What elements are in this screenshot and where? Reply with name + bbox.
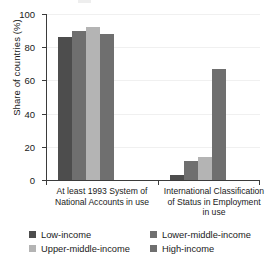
y-axis-tick-label: 60 xyxy=(24,75,35,86)
y-axis-tick: 60 xyxy=(42,80,47,81)
bar xyxy=(100,34,114,180)
bar xyxy=(184,161,198,180)
legend-item-high-income: High-income xyxy=(150,242,214,255)
legend-label: Upper-middle-income xyxy=(41,244,130,254)
bar-chart: Share of countries (%) 020406080100 At l… xyxy=(0,0,267,260)
bar xyxy=(58,37,72,180)
bar xyxy=(170,175,184,180)
x-axis-line xyxy=(46,180,260,181)
y-axis-tick-label: 0 xyxy=(30,175,35,186)
y-axis-title: Share of countries (%) xyxy=(11,0,22,138)
x-axis-label-line: National Accounts in use xyxy=(42,197,162,208)
x-axis-tick xyxy=(158,180,159,185)
x-axis-label-line: International Classification xyxy=(158,186,267,197)
y-axis-tick: 100 xyxy=(42,14,47,15)
y-axis-tick-label: 40 xyxy=(24,109,35,120)
legend-label: High-income xyxy=(162,244,214,254)
bar xyxy=(86,27,100,180)
y-axis-tick: 20 xyxy=(42,147,47,148)
legend-item-low-income: Low-income xyxy=(29,228,91,241)
y-axis-tick-label: 100 xyxy=(19,9,35,20)
legend-item-lower-middle-income: Lower-middle-income xyxy=(150,228,251,241)
legend-swatch-icon xyxy=(150,231,157,238)
legend-label: Lower-middle-income xyxy=(162,230,251,240)
x-axis-label-line: of Status in Employment xyxy=(158,197,267,208)
legend-swatch-icon xyxy=(29,231,36,238)
x-axis-label-line: in use xyxy=(158,207,267,218)
y-axis-tick: 80 xyxy=(42,47,47,48)
x-axis-tick xyxy=(259,180,260,185)
legend-swatch-icon xyxy=(29,245,36,252)
x-axis-group-label: At least 1993 System ofNational Accounts… xyxy=(42,186,162,207)
y-axis-tick: 40 xyxy=(42,114,47,115)
y-gridline xyxy=(47,14,260,15)
y-axis-line xyxy=(46,14,47,181)
x-axis-labels: At least 1993 System ofNational Accounts… xyxy=(46,186,264,224)
x-axis-label-line: At least 1993 System of xyxy=(42,186,162,197)
legend-item-upper-middle-income: Upper-middle-income xyxy=(29,242,130,255)
x-axis-group-label: International Classificationof Status in… xyxy=(158,186,267,218)
chart-legend: Low-income Lower-middle-income Upper-mid… xyxy=(29,228,265,256)
legend-label: Low-income xyxy=(41,230,91,240)
y-axis-tick-label: 20 xyxy=(24,142,35,153)
legend-swatch-icon xyxy=(150,245,157,252)
bar xyxy=(198,157,212,180)
y-axis-tick-label: 80 xyxy=(24,42,35,53)
plot-area: 020406080100 xyxy=(46,14,260,180)
x-axis-tick xyxy=(46,180,47,185)
bar xyxy=(212,69,226,180)
bar xyxy=(72,31,86,180)
cropped-title-artifact xyxy=(78,0,91,3)
